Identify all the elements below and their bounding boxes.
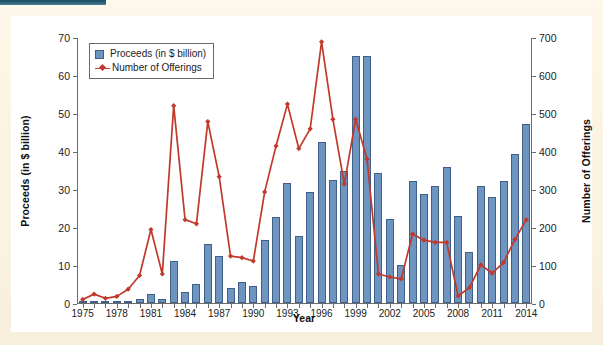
x-tick-label: 1999	[345, 308, 367, 319]
legend-item-proceeds: Proceeds (in $ billion)	[95, 47, 206, 61]
x-tick-label: 1993	[276, 308, 298, 319]
line-marker-diamond	[308, 126, 313, 131]
bar	[215, 256, 223, 303]
x-tick-label: 2008	[447, 308, 469, 319]
bar	[90, 301, 98, 303]
legend-item-offerings: Number of Offerings	[95, 61, 206, 75]
x-tick-mark	[435, 304, 436, 308]
bar	[443, 167, 451, 303]
bar	[363, 56, 371, 303]
left-tick-label: 50	[58, 108, 70, 120]
right-tick-mark	[532, 266, 536, 267]
left-axis-line	[77, 38, 78, 304]
x-tick-mark	[94, 304, 95, 308]
x-tick-label: 2002	[379, 308, 401, 319]
x-tick-label: 1990	[242, 308, 264, 319]
bar	[204, 244, 212, 303]
left-tick-mark	[73, 152, 77, 153]
bar	[306, 192, 314, 303]
x-tick-mark	[299, 304, 300, 308]
bar	[181, 292, 189, 303]
bar	[511, 154, 519, 303]
x-tick-mark	[367, 304, 368, 308]
bar	[488, 197, 496, 303]
bar	[124, 301, 132, 303]
left-tick-mark	[73, 114, 77, 115]
left-tick-label: 0	[64, 298, 70, 310]
line-marker-diamond	[228, 254, 233, 259]
line-marker-diamond	[239, 255, 244, 260]
left-tick-mark	[73, 38, 77, 39]
x-tick-mark	[265, 304, 266, 308]
line-marker-diamond	[194, 221, 199, 226]
bar	[113, 301, 121, 303]
x-tick-mark	[469, 304, 470, 308]
right-tick-label: 500	[539, 108, 557, 120]
x-tick-label: 2005	[413, 308, 435, 319]
left-tick-label: 30	[58, 184, 70, 196]
x-tick-label: 2011	[481, 308, 503, 319]
line-marker-diamond	[285, 102, 290, 107]
line-marker-diamond	[262, 189, 267, 194]
line-marker-diamond	[296, 146, 301, 151]
legend-label-proceeds: Proceeds (in $ billion)	[110, 47, 206, 61]
left-tick-mark	[73, 190, 77, 191]
x-tick-mark	[196, 304, 197, 308]
line-marker-diamond	[273, 143, 278, 148]
line-marker-diamond	[319, 39, 324, 44]
x-tick-label: 1987	[208, 308, 230, 319]
line-marker-diamond	[160, 271, 165, 276]
x-tick-label: 1981	[140, 308, 162, 319]
bar	[500, 181, 508, 303]
line-marker-diamond	[126, 287, 131, 292]
line-marker-diamond	[137, 273, 142, 278]
bar	[397, 265, 405, 303]
left-tick-label: 70	[58, 32, 70, 44]
x-tick-mark	[128, 304, 129, 308]
right-tick-label: 700	[539, 32, 557, 44]
top-tab-strip	[0, 0, 107, 5]
bar	[295, 236, 303, 303]
line-marker-diamond	[182, 217, 187, 222]
right-tick-mark	[532, 228, 536, 229]
x-tick-mark	[162, 304, 163, 308]
line-marker-diamond	[91, 292, 96, 297]
line-marker-diamond	[251, 258, 256, 263]
right-tick-label: 0	[539, 298, 545, 310]
left-tick-mark	[73, 266, 77, 267]
right-tick-label: 300	[539, 184, 557, 196]
bar	[340, 171, 348, 303]
bar	[79, 301, 87, 303]
figure-panel: Proceeds (in $ billion) Number of Offeri…	[11, 16, 592, 332]
x-tick-label: 1978	[106, 308, 128, 319]
x-tick-label: 1975	[72, 308, 94, 319]
left-tick-label: 40	[58, 146, 70, 158]
bar	[477, 186, 485, 303]
line-marker-diamond	[114, 294, 119, 299]
x-tick-mark	[504, 304, 505, 308]
line-marker-diamond	[217, 174, 222, 179]
left-tick-label: 20	[58, 222, 70, 234]
right-axis-line	[531, 38, 532, 304]
bar	[272, 217, 280, 303]
right-tick-mark	[532, 152, 536, 153]
legend-label-offerings: Number of Offerings	[112, 61, 202, 75]
right-tick-mark	[532, 114, 536, 115]
bar	[465, 252, 473, 303]
right-tick-label: 100	[539, 260, 557, 272]
right-tick-mark	[532, 190, 536, 191]
bar-swatch-icon	[95, 50, 104, 59]
bar	[227, 288, 235, 303]
right-tick-mark	[532, 76, 536, 77]
line-marker-diamond	[171, 103, 176, 108]
bar	[261, 240, 269, 303]
line-marker-diamond	[330, 117, 335, 122]
bar	[352, 56, 360, 303]
right-tick-label: 600	[539, 70, 557, 82]
bar	[101, 301, 109, 303]
x-tick-mark	[401, 304, 402, 308]
left-tick-mark	[73, 228, 77, 229]
x-tick-label: 1996	[310, 308, 332, 319]
left-tick-mark	[73, 304, 77, 305]
bar	[318, 142, 326, 304]
